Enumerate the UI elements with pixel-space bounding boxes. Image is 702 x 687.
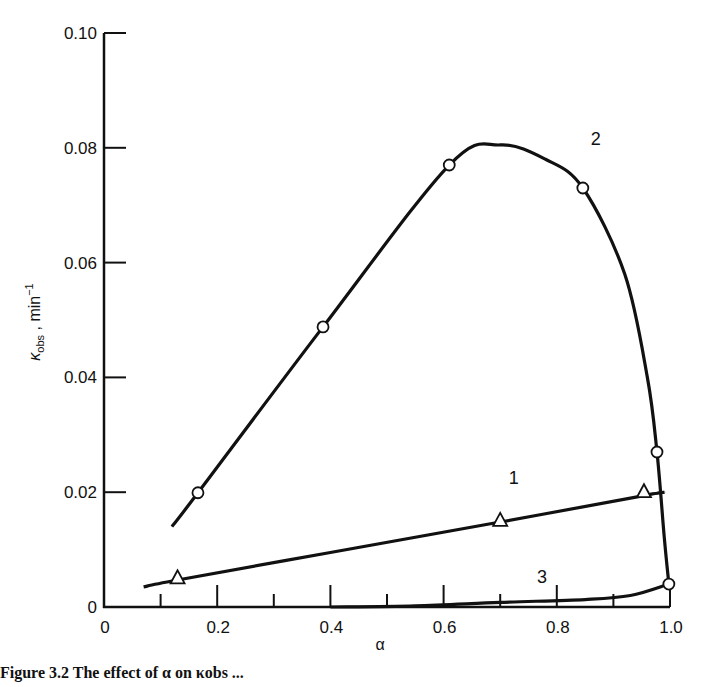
chart: 00.020.040.060.080.10 00.20.40.60.81.0 1… <box>0 0 702 687</box>
circle-marker <box>663 579 674 590</box>
markers <box>171 160 675 590</box>
circle-marker <box>192 487 203 498</box>
curve-label-1: 1 <box>509 468 519 488</box>
x-tick-label: 1.0 <box>659 618 683 637</box>
x-tick-label: 0.2 <box>206 618 230 637</box>
x-tick-label: 0.6 <box>433 618 457 637</box>
y-tick-label: 0.04 <box>64 368 97 387</box>
circle-marker <box>444 160 455 171</box>
x-axis-label: α <box>375 636 384 653</box>
y-ticks: 00.020.040.060.080.10 <box>64 24 126 617</box>
curve-label-2: 2 <box>591 129 601 149</box>
y-tick-label: 0.02 <box>64 483 97 502</box>
triangle-marker <box>171 570 185 583</box>
axes <box>103 33 670 608</box>
y-axis-label: κobs , min−1 <box>23 283 46 360</box>
y-label-sub: obs <box>34 334 46 352</box>
svg-text:κobs , min−1: κobs , min−1 <box>23 283 46 360</box>
y-tick-label: 0 <box>88 598 97 617</box>
y-label-rest: , min <box>26 296 43 335</box>
curves <box>144 144 669 607</box>
x-ticks: 00.20.40.60.81.0 <box>100 585 683 637</box>
y-tick-label: 0.10 <box>64 24 97 43</box>
x-tick-label: 0.8 <box>546 618 570 637</box>
y-label-sup: −1 <box>23 283 35 296</box>
circle-marker <box>577 182 588 193</box>
circle-marker <box>651 447 662 458</box>
y-tick-label: 0.06 <box>64 254 97 273</box>
figure-caption: Figure 3.2 The effect of α on κobs ... <box>0 664 702 687</box>
curve-label-3: 3 <box>537 567 547 587</box>
circle-marker <box>318 321 329 332</box>
curve-1 <box>144 492 665 587</box>
curve-2 <box>172 144 669 584</box>
curve-1-end <box>650 492 664 494</box>
triangle-marker <box>637 484 651 497</box>
x-tick-label: 0 <box>100 618 109 637</box>
x-tick-label: 0.4 <box>320 618 344 637</box>
triangle-marker <box>493 513 507 526</box>
y-tick-label: 0.08 <box>64 139 97 158</box>
